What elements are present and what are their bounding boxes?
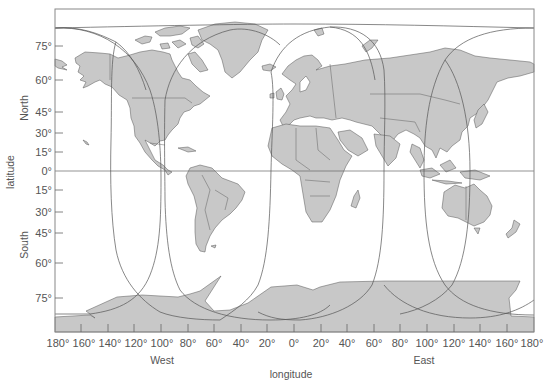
- x-tick-label: 140°: [469, 337, 492, 349]
- y-axis-labels: 75° 60° 45° 30° 15° 0° 15° 30° 45° 60° 7…: [35, 40, 52, 304]
- antarctica: [55, 276, 534, 332]
- y-tick-label: 30°: [35, 127, 52, 139]
- x-tick-label: 60°: [206, 337, 223, 349]
- x-west-label: West: [150, 354, 174, 366]
- x-axis-title: longitude: [270, 368, 313, 380]
- x-tick-label: 180°: [47, 337, 70, 349]
- x-tick-label: 20°: [259, 337, 276, 349]
- y-tick-label: 60°: [35, 257, 52, 269]
- x-tick-label: 80°: [180, 337, 197, 349]
- x-tick-label: 20°: [313, 337, 330, 349]
- y-tick-label: 15°: [35, 146, 52, 158]
- x-tick-label: 140°: [99, 337, 122, 349]
- x-tick-label: 100°: [416, 337, 439, 349]
- world-map: 75° 60° 45° 30° 15° 0° 15° 30° 45° 60° 7…: [0, 0, 547, 388]
- x-tick-label: 40°: [233, 337, 250, 349]
- x-tick-label: 160°: [496, 337, 519, 349]
- continents: [55, 22, 534, 252]
- y-tick-label: 45°: [35, 106, 52, 118]
- x-tick-label: 100°: [151, 337, 174, 349]
- x-east-label: East: [413, 354, 434, 366]
- y-axis-ticks: [55, 46, 63, 298]
- x-axis-labels: 180° 160° 140° 120° 100° 80° 60° 40° 20°…: [47, 337, 544, 349]
- y-tick-label: 45°: [35, 227, 52, 239]
- y-tick-label: 30°: [35, 206, 52, 218]
- y-tick-label: 0°: [41, 165, 52, 177]
- y-north-label: North: [18, 95, 30, 121]
- y-tick-label: 15°: [35, 184, 52, 196]
- y-tick-label: 60°: [35, 74, 52, 86]
- x-tick-label: 0°: [289, 337, 300, 349]
- y-tick-label: 75°: [35, 292, 52, 304]
- y-south-label: South: [18, 231, 30, 259]
- y-axis-title: latitude: [4, 155, 16, 189]
- x-tick-label: 60°: [366, 337, 383, 349]
- x-tick-label: 160°: [73, 337, 96, 349]
- y-tick-label: 75°: [35, 40, 52, 52]
- x-tick-label: 120°: [443, 337, 466, 349]
- x-tick-label: 120°: [125, 337, 148, 349]
- x-tick-label: 180°: [521, 337, 544, 349]
- x-tick-label: 80°: [392, 337, 409, 349]
- x-tick-label: 40°: [339, 337, 356, 349]
